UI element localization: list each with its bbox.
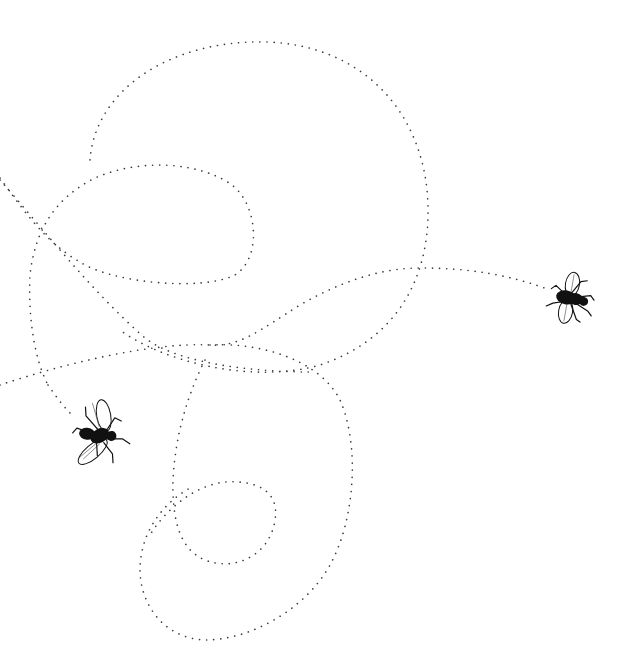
flight-paths <box>0 42 550 640</box>
flight-path-lower-loop <box>140 345 352 640</box>
fly-right-illustration <box>544 269 598 328</box>
illustration-canvas: .path{stroke-dasharray:0.1 7;} <box>0 0 643 665</box>
flight-path-left-fly-trail <box>48 385 72 415</box>
flight-path-lower-left <box>150 360 276 564</box>
flight-path-diagonal <box>0 180 310 372</box>
fly-wing-icon <box>94 399 113 433</box>
flight-path-large-loop <box>90 42 428 372</box>
flight-path-to-right-fly <box>0 268 550 385</box>
flight-path-inner-loop <box>0 165 253 385</box>
fly-left-illustration <box>55 394 138 478</box>
